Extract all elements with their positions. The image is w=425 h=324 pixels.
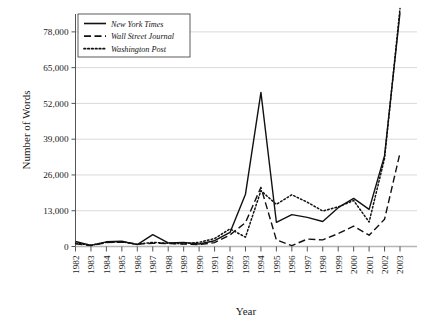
line-chart: 013,00026,00039,00052,00065,00078,000 19… bbox=[0, 0, 425, 324]
x-axis-ticks bbox=[76, 247, 401, 252]
legend-label-1: Wall Street Journal bbox=[111, 32, 175, 41]
x-axis-tick-labels: 1982198319841985198619871988198919901991… bbox=[71, 255, 406, 274]
legend-label-0: New York Times bbox=[110, 20, 163, 29]
x-tick-label: 1997 bbox=[303, 255, 313, 274]
legend-label-2: Washington Post bbox=[111, 45, 167, 54]
x-axis-label: Year bbox=[236, 305, 257, 317]
x-tick-label: 1994 bbox=[256, 255, 266, 274]
chart-legend: New York TimesWall Street JournalWashing… bbox=[78, 14, 190, 57]
y-tick-label: 65,000 bbox=[43, 63, 69, 73]
x-tick-label: 2002 bbox=[380, 255, 390, 274]
x-tick-label: 1995 bbox=[272, 255, 282, 274]
x-tick-label: 1996 bbox=[287, 255, 297, 274]
x-tick-label: 1990 bbox=[195, 255, 205, 274]
y-tick-label: 52,000 bbox=[43, 99, 69, 109]
x-tick-label: 2003 bbox=[395, 255, 405, 274]
x-tick-label: 1988 bbox=[164, 255, 174, 274]
y-tick-label: 39,000 bbox=[43, 134, 69, 144]
y-axis-label: Number of Words bbox=[20, 91, 32, 170]
y-tick-label: 78,000 bbox=[43, 27, 69, 37]
x-tick-label: 2000 bbox=[349, 255, 359, 274]
x-tick-label: 1985 bbox=[117, 255, 127, 274]
x-tick-label: 1986 bbox=[133, 255, 143, 274]
x-tick-label: 1999 bbox=[334, 255, 344, 274]
y-tick-label: 13,000 bbox=[43, 206, 69, 216]
y-axis-tick-labels: 013,00026,00039,00052,00065,00078,000 bbox=[43, 27, 69, 252]
chart-figure: 013,00026,00039,00052,00065,00078,000 19… bbox=[0, 0, 425, 324]
x-tick-label: 1989 bbox=[179, 255, 189, 274]
x-tick-label: 1998 bbox=[318, 255, 328, 274]
gridlines bbox=[76, 32, 418, 211]
x-tick-label: 1982 bbox=[71, 255, 81, 274]
x-tick-label: 1992 bbox=[225, 255, 235, 274]
y-axis-ticks bbox=[72, 32, 76, 247]
x-tick-label: 1983 bbox=[86, 255, 96, 274]
y-tick-label: 0 bbox=[64, 242, 69, 252]
x-tick-label: 1984 bbox=[102, 255, 112, 274]
y-tick-label: 26,000 bbox=[43, 170, 69, 180]
x-tick-label: 1991 bbox=[210, 255, 220, 274]
x-tick-label: 2001 bbox=[365, 255, 375, 274]
x-tick-label: 1987 bbox=[148, 255, 158, 274]
x-tick-label: 1993 bbox=[241, 255, 251, 274]
